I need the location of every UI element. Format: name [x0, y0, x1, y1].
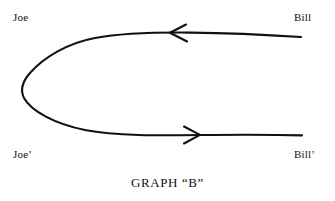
- node-label-joe: Joe: [13, 12, 28, 23]
- edge-path-hairpin: [22, 33, 302, 136]
- graph-drawing: [0, 0, 335, 201]
- node-label-bill-prime: Bill’: [294, 149, 315, 160]
- node-label-bill: Bill: [294, 12, 311, 23]
- node-label-joe-prime: Joe’: [13, 149, 32, 160]
- figure-caption: GRAPH “B”: [0, 176, 335, 189]
- graph-b-figure: Joe Bill Joe’ Bill’ GRAPH “B”: [0, 0, 335, 201]
